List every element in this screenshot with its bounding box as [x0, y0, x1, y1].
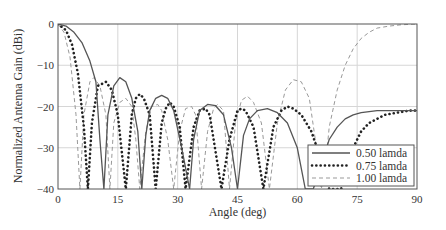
legend: 0.50 lamda0.75 lamda1.00 lamda: [308, 145, 414, 186]
x-tick-label: 90: [412, 193, 424, 205]
y-tick-label: 0: [49, 18, 55, 30]
legend-label: 0.50 lamda: [356, 147, 407, 159]
x-tick-label: 15: [112, 193, 124, 205]
y-tick-label: −20: [37, 101, 55, 113]
x-tick-label: 0: [55, 193, 61, 205]
x-tick-label: 30: [172, 193, 184, 205]
legend-label: 1.00 lamda: [356, 172, 407, 184]
x-tick-label: 45: [232, 193, 244, 205]
y-axis-label: Normalized Antenna Gain (dBi): [11, 29, 25, 183]
legend-label: 0.75 lamda: [356, 160, 407, 172]
y-tick-label: −10: [37, 59, 55, 71]
y-tick-label: −40: [37, 183, 55, 195]
x-axis-label: Angle (deg): [209, 205, 267, 219]
x-tick-label: 60: [292, 193, 304, 205]
y-tick-label: −30: [37, 142, 55, 154]
x-tick-label: 75: [352, 193, 364, 205]
antenna-gain-chart: 01530456075900−10−20−30−40 Angle (deg) N…: [0, 0, 446, 230]
